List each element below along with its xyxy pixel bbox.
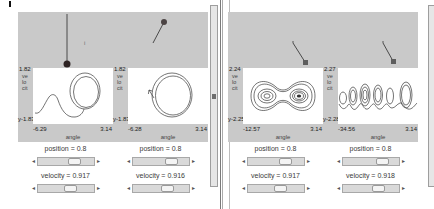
velocity-value-label: velocity = 0.918 — [323, 171, 418, 181]
slider-left-arrow-icon[interactable]: ◂ — [242, 157, 245, 166]
window-corner-mark — [9, 1, 11, 7]
x-min-label: -6.29 — [33, 126, 47, 132]
slider-thumb[interactable] — [68, 158, 81, 165]
phase-trace — [338, 68, 418, 124]
pendulum-bob[interactable] — [161, 19, 167, 25]
velocity-value-label: velocity = 0.917 — [228, 171, 323, 181]
slider-thumb[interactable] — [376, 158, 389, 165]
pendulum-drawing: i — [18, 12, 208, 68]
pendulum-canvas[interactable]: i 1.82 velocit y-1.83 -6.29 3.14 angle 1… — [18, 12, 208, 142]
slider-track[interactable] — [37, 184, 95, 193]
position-slider[interactable]: ◂ ▸ — [228, 155, 323, 168]
position-value-label: position = 0.8 — [113, 144, 208, 154]
slider-track[interactable] — [342, 157, 400, 166]
y-max-label: 1.82 — [114, 66, 126, 72]
pendulum-bob[interactable] — [391, 59, 396, 64]
pendulum-rod — [383, 43, 393, 61]
slider-thumb[interactable] — [372, 185, 385, 192]
slider-track[interactable] — [37, 157, 95, 166]
slider-track[interactable] — [132, 184, 190, 193]
x-axis-label: angle — [33, 134, 113, 140]
right-window-scrollbar[interactable] — [428, 5, 434, 187]
left-window-scrollbar[interactable] — [210, 5, 218, 187]
position-slider[interactable]: ◂ ▸ — [18, 155, 113, 168]
slider-thumb[interactable] — [165, 158, 178, 165]
velocity-slider[interactable]: ◂ ▸ — [113, 182, 208, 195]
phase-plot-area — [338, 68, 418, 124]
x-min-label: -6.28 — [128, 126, 142, 132]
x-max-label: 3.14 — [195, 126, 207, 132]
slider-thumb[interactable] — [279, 158, 292, 165]
pendulum-drawing — [228, 12, 418, 68]
y-max-label: 2.27 — [324, 66, 336, 72]
slider-right-arrow-icon[interactable]: ▸ — [97, 184, 100, 193]
phase-plot-area — [33, 68, 113, 124]
slider-left-arrow-icon[interactable]: ◂ — [127, 184, 130, 193]
slider-right-arrow-icon[interactable]: ▸ — [307, 157, 310, 166]
controls-column-2: position = 0.8 ◂ ▸ velocity = 0.918 ◂ ▸ — [323, 144, 418, 198]
slider-track[interactable] — [247, 157, 305, 166]
slider-track[interactable] — [132, 157, 190, 166]
pendulum-bob[interactable] — [303, 60, 308, 65]
velocity-slider[interactable]: ◂ ▸ — [323, 182, 418, 195]
phase-plot-area — [243, 68, 323, 124]
position-value-label: position = 0.8 — [228, 144, 323, 154]
slider-thumb[interactable] — [274, 185, 287, 192]
position-value-label: position = 0.8 — [18, 144, 113, 154]
simulation-panel-left: i 1.82 velocit y-1.83 -6.29 3.14 angle 1… — [18, 12, 210, 207]
velocity-slider[interactable]: ◂ ▸ — [18, 182, 113, 195]
phase-plot-area — [128, 68, 208, 124]
slider-right-arrow-icon[interactable]: ▸ — [192, 184, 195, 193]
slider-track[interactable] — [342, 184, 400, 193]
pendulum-bob[interactable] — [64, 61, 71, 68]
slider-left-arrow-icon[interactable]: ◂ — [127, 157, 130, 166]
controls-column-1: position = 0.8 ◂ ▸ velocity = 0.917 ◂ ▸ — [228, 144, 323, 198]
phase-plot-1: 1.82 velocit y-1.83 -6.29 3.14 angle — [18, 68, 113, 146]
pendulum-pivot — [382, 41, 384, 43]
slider-left-arrow-icon[interactable]: ◂ — [242, 184, 245, 193]
velocity-slider[interactable]: ◂ ▸ — [228, 182, 323, 195]
simulation-panel-right: 2.24 velocit y-2.25 -12.57 3.14 angle — [228, 12, 420, 207]
y-axis-label: velocit — [117, 74, 123, 91]
y-axis-label: velocit — [22, 74, 28, 91]
x-axis-label: angle — [338, 134, 418, 140]
controls-column-2: position = 0.8 ◂ ▸ velocity = 0.916 ◂ ▸ — [113, 144, 208, 198]
window-divider — [222, 0, 223, 209]
slider-left-arrow-icon[interactable]: ◂ — [337, 157, 340, 166]
phase-trace — [243, 68, 323, 124]
slider-right-arrow-icon[interactable]: ▸ — [307, 184, 310, 193]
slider-left-arrow-icon[interactable]: ◂ — [337, 184, 340, 193]
app-window: { "colors": { "canvas_bg": "#c9c9c9", "p… — [0, 0, 434, 209]
y-axis-label: velocit — [232, 74, 238, 91]
pendulum-canvas[interactable]: 2.24 velocit y-2.25 -12.57 3.14 angle — [228, 12, 418, 142]
phase-plot-2: 1.82 velocit y-1.83 -6.28 3.14 angle — [113, 68, 208, 146]
x-min-label: -34.56 — [338, 126, 355, 132]
phase-trace — [128, 68, 208, 124]
slider-right-arrow-icon[interactable]: ▸ — [192, 157, 195, 166]
y-max-label: 1.82 — [19, 66, 31, 72]
canvas-annotation: i — [84, 40, 85, 46]
position-slider[interactable]: ◂ ▸ — [113, 155, 208, 168]
slider-right-arrow-icon[interactable]: ▸ — [97, 157, 100, 166]
velocity-value-label: velocity = 0.916 — [113, 171, 208, 181]
position-value-label: position = 0.8 — [323, 144, 418, 154]
pendulum-rod — [293, 43, 305, 62]
slider-thumb[interactable] — [161, 185, 174, 192]
slider-right-arrow-icon[interactable]: ▸ — [402, 157, 405, 166]
slider-track[interactable] — [247, 184, 305, 193]
velocity-value-label: velocity = 0.917 — [18, 171, 113, 181]
phase-plot-3: 2.24 velocit y-2.25 -12.57 3.14 angle — [228, 68, 323, 146]
scrollbar-thumb[interactable] — [212, 94, 216, 99]
y-axis-label: velocit — [327, 74, 333, 91]
x-max-label: 3.14 — [405, 126, 417, 132]
slider-left-arrow-icon[interactable]: ◂ — [32, 184, 35, 193]
position-slider[interactable]: ◂ ▸ — [323, 155, 418, 168]
slider-right-arrow-icon[interactable]: ▸ — [402, 184, 405, 193]
phase-plot-4: 2.27 velocit y-2.28 — [323, 68, 418, 146]
slider-thumb[interactable] — [64, 185, 77, 192]
y-max-label: 2.24 — [229, 66, 241, 72]
phase-trace — [33, 68, 113, 124]
pendulum-rod — [153, 24, 163, 43]
slider-left-arrow-icon[interactable]: ◂ — [32, 157, 35, 166]
window-divider — [220, 0, 221, 209]
